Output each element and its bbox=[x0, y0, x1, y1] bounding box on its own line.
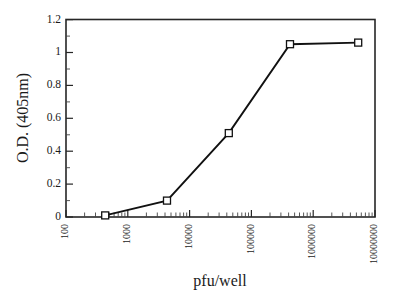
xtick-label: 100 bbox=[59, 224, 70, 239]
y-axis-title: O.D. (405nm) bbox=[14, 73, 32, 163]
plot-frame bbox=[66, 20, 375, 218]
xtick-label: 10000000 bbox=[368, 224, 379, 264]
ytick-label: 1 bbox=[55, 45, 61, 57]
data-point-marker bbox=[287, 41, 294, 48]
xtick-label: 1000000 bbox=[306, 224, 317, 259]
data-point-marker bbox=[355, 39, 362, 46]
dose-response-chart: 0 0.2 0.4 0.6 0.8 1 1.2 100 1000 10000 1… bbox=[0, 0, 399, 299]
y-axis-tick-labels: 0 0.2 0.4 0.6 0.8 1 1.2 bbox=[47, 13, 62, 222]
data-point-marker bbox=[102, 212, 109, 219]
ytick-label: 1.2 bbox=[47, 13, 62, 25]
ytick-label: 0.2 bbox=[47, 177, 62, 189]
xtick-label: 10000 bbox=[183, 224, 194, 249]
ytick-label: 0.8 bbox=[47, 78, 62, 90]
data-point-marker bbox=[164, 197, 171, 204]
data-markers bbox=[102, 39, 362, 219]
xtick-label: 1000 bbox=[121, 224, 132, 244]
data-point-marker bbox=[225, 130, 232, 137]
chart-page: 0 0.2 0.4 0.6 0.8 1 1.2 100 1000 10000 1… bbox=[0, 0, 399, 299]
ytick-label: 0.6 bbox=[47, 111, 62, 123]
x-axis-tick-labels: 100 1000 10000 100000 1000000 10000000 bbox=[59, 224, 379, 264]
ytick-label: 0 bbox=[55, 210, 61, 222]
y-axis-ticks bbox=[66, 20, 73, 217]
ytick-label: 0.4 bbox=[47, 144, 62, 156]
xtick-label: 100000 bbox=[245, 224, 256, 254]
x-axis-title: pfu/well bbox=[193, 272, 247, 290]
